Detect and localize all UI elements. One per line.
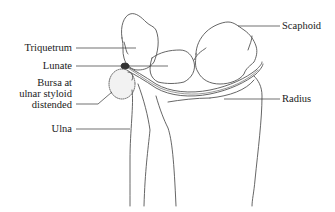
radius-bone bbox=[156, 96, 176, 206]
triquetrum-bone bbox=[121, 14, 158, 70]
label-triquetrum: Triquetrum bbox=[0, 42, 72, 53]
label-bursa-line3: distended bbox=[0, 99, 72, 110]
label-bursa-line2: ulnar styloid bbox=[0, 88, 72, 99]
label-radius: Radius bbox=[282, 93, 311, 104]
scaphoid-bone bbox=[196, 22, 257, 84]
wrist-anatomy-diagram: Triquetrum Lunate Bursa at ulnar styloid… bbox=[0, 0, 335, 212]
label-ulna: Ulna bbox=[0, 123, 72, 134]
label-scaphoid: Scaphoid bbox=[282, 20, 321, 31]
label-lunate: Lunate bbox=[0, 60, 72, 71]
label-bursa-line1: Bursa at bbox=[0, 77, 72, 88]
lunate-bone bbox=[150, 50, 195, 84]
ulna-bone bbox=[130, 90, 133, 206]
